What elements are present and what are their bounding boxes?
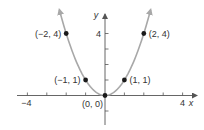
- point-label: (2, 4): [149, 29, 170, 39]
- data-point: [122, 78, 127, 83]
- point-labels: (−2, 4)(−1, 1)(0, 0)(1, 1)(2, 4): [35, 29, 170, 109]
- point-label: (−2, 4): [35, 29, 61, 39]
- y-tick-label: 4: [96, 29, 101, 39]
- point-label: (0, 0): [82, 99, 103, 109]
- y-axis-label: y: [93, 10, 99, 20]
- x-axis-label: x: [188, 98, 194, 108]
- parabola-chart: −444xy (−2, 4)(−1, 1)(0, 0)(1, 1)(2, 4): [0, 0, 204, 130]
- data-point: [83, 78, 88, 83]
- axes: −444xy: [17, 10, 197, 125]
- point-label: (−1, 1): [54, 75, 80, 85]
- x-tick-label: 4: [180, 98, 185, 108]
- data-point: [141, 31, 146, 36]
- point-label: (1, 1): [129, 75, 150, 85]
- x-tick-label: −4: [21, 98, 31, 108]
- data-point: [103, 93, 108, 98]
- data-point: [64, 31, 69, 36]
